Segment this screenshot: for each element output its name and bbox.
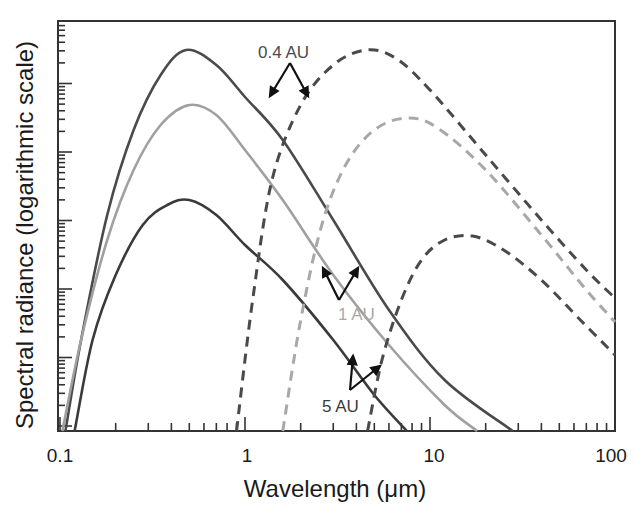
x-axis-ticks [60,417,615,431]
x-tick-label-100: 100 [595,445,627,466]
thermal-curve-3 [237,50,615,431]
x-tick-label-0.1: 0.1 [47,445,73,466]
annotation-1-au: 1 AU [338,305,375,324]
curves [62,50,615,431]
y-axis-ticks [58,26,72,426]
annotation-arrows [270,63,380,390]
x-tick-label-10: 10 [423,445,444,466]
y-axis-title: Spectral radiance (logarithmic scale) [11,41,38,429]
annotation-5-au: 5 AU [322,397,359,416]
x-tick-label-1: 1 [242,445,253,466]
annotation-0.4-au: 0.4 AU [258,43,309,62]
spectral-radiance-chart: 0.1 1 10 100 Wavelength (μm) Spectral ra… [0,0,634,515]
x-axis-title: Wavelength (μm) [244,475,426,502]
